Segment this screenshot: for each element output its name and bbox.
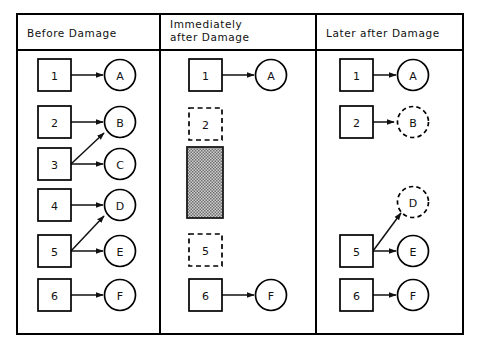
panel-title-immediately-after-damage-line1: Immediately	[170, 18, 242, 30]
node-label-3: 3	[51, 159, 58, 172]
node-label-A: A	[409, 70, 417, 83]
panel2-source-2-deafferented[interactable]: 2	[189, 108, 222, 140]
panel3-target-A[interactable]: A	[398, 60, 429, 91]
panel3-target-F[interactable]: F	[398, 280, 429, 311]
node-label-F: F	[117, 290, 123, 303]
panel3-source-5[interactable]: 5	[340, 235, 373, 267]
panel2-source-5-deafferented[interactable]: 5	[189, 234, 222, 266]
panel-before-damage: 1 2 3 4 5 6 A B	[38, 59, 136, 311]
node-label-D: D	[409, 197, 417, 210]
panel1-source-2[interactable]: 2	[38, 106, 71, 138]
panel3-connections	[373, 75, 401, 295]
outer-border	[17, 14, 463, 334]
panel1-source-6[interactable]: 6	[38, 279, 71, 311]
panel1-target-F[interactable]: F	[105, 280, 136, 311]
panel2-target-F[interactable]: F	[256, 280, 287, 311]
panel3-target-D-reinnervated[interactable]: D	[398, 187, 429, 218]
node-label-1: 1	[202, 70, 209, 83]
panel1-source-3[interactable]: 3	[38, 148, 71, 180]
panel-immediately-after-damage: 1 2 5 6 A F	[187, 59, 287, 311]
connection-5-to-D	[373, 213, 401, 251]
panel1-connections	[71, 75, 104, 295]
node-label-2: 2	[353, 117, 360, 130]
panel3-target-B-reinnervated[interactable]: B	[398, 107, 429, 138]
panel2-target-A[interactable]: A	[256, 60, 287, 91]
panel1-target-A[interactable]: A	[105, 60, 136, 91]
panel3-source-6[interactable]: 6	[340, 279, 373, 311]
node-label-E: E	[117, 246, 124, 259]
panel2-connections	[222, 75, 254, 295]
node-label-2: 2	[202, 119, 209, 132]
node-label-F: F	[268, 290, 274, 303]
node-label-B: B	[116, 117, 124, 130]
node-label-E: E	[410, 246, 417, 259]
panel-title-later-after-damage: Later after Damage	[326, 27, 440, 39]
panel3-source-1[interactable]: 1	[340, 59, 373, 91]
node-label-4: 4	[51, 200, 58, 213]
node-label-1: 1	[51, 70, 58, 83]
node-label-A: A	[116, 70, 124, 83]
panel3-source-2[interactable]: 2	[340, 106, 373, 138]
panel1-target-C[interactable]: C	[105, 149, 136, 180]
panel2-source-6[interactable]: 6	[189, 279, 222, 311]
node-label-5: 5	[51, 246, 58, 259]
node-label-C: C	[116, 159, 124, 172]
node-label-5: 5	[202, 245, 209, 258]
node-label-6: 6	[353, 290, 360, 303]
connection-5-to-D	[71, 216, 104, 251]
node-label-D: D	[116, 200, 124, 213]
figure-frame	[17, 14, 463, 334]
panel1-source-1[interactable]: 1	[38, 59, 71, 91]
connection-3-to-B	[71, 133, 104, 164]
figure-root: Before Damage Immediately after Damage L…	[0, 0, 478, 350]
panel1-target-B[interactable]: B	[105, 107, 136, 138]
panel3-target-E[interactable]: E	[398, 236, 429, 267]
node-label-F: F	[410, 290, 416, 303]
node-label-2: 2	[51, 117, 58, 130]
panel1-target-D[interactable]: D	[105, 190, 136, 221]
panel-titles: Before Damage Immediately after Damage L…	[27, 18, 440, 43]
panel-title-before-damage: Before Damage	[27, 27, 117, 39]
damage-diagram: Before Damage Immediately after Damage L…	[0, 0, 478, 350]
node-label-1: 1	[353, 70, 360, 83]
panel-title-immediately-after-damage-line2: after Damage	[170, 31, 250, 43]
node-label-6: 6	[51, 290, 58, 303]
node-label-5: 5	[353, 246, 360, 259]
lesion-rect[interactable]	[187, 147, 223, 218]
node-label-6: 6	[202, 290, 209, 303]
node-label-A: A	[267, 70, 275, 83]
panel2-source-1[interactable]: 1	[189, 59, 222, 91]
panel1-source-5[interactable]: 5	[38, 235, 71, 267]
panel1-source-4[interactable]: 4	[38, 189, 71, 221]
panel1-target-E[interactable]: E	[105, 236, 136, 267]
node-label-B: B	[409, 117, 417, 130]
panel-later-after-damage: 1 2 5 6 A B D E	[340, 59, 429, 311]
panel2-lesion-region[interactable]	[187, 147, 223, 218]
